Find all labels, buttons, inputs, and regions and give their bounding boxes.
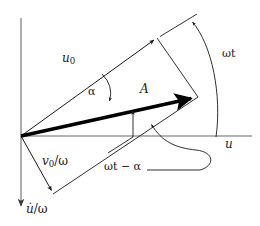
label-omega-t-minus-alpha: ωt − α: [104, 161, 141, 172]
label-udot-base: u̇: [26, 202, 34, 216]
omega-t-minus-alpha-loop-leader: [152, 125, 211, 171]
label-omega-t: ωt: [222, 48, 235, 59]
extension-tick-line: [160, 14, 197, 37]
label-u0-base: u: [62, 51, 70, 65]
label-udot-over-omega: u̇/ω: [26, 203, 48, 215]
phasor-diagram-figure: u0 α A ωt u v0/ω ωt − α u̇/ω: [0, 0, 260, 226]
label-udot-tail: /ω: [34, 202, 48, 216]
omega-t-angle-arc: [193, 22, 218, 137]
label-A: A: [140, 83, 149, 95]
label-u0: u0: [62, 52, 75, 66]
label-u0-subscript: 0: [70, 56, 76, 66]
label-v0-base: v: [42, 154, 49, 168]
omega-t-minus-alpha-leader-left: [108, 137, 133, 153]
label-alpha: α: [88, 86, 95, 97]
parallelogram-side-top-right: [157, 38, 198, 97]
alpha-angle-arc: [102, 74, 111, 101]
label-v0-over-omega: v0/ω: [42, 155, 68, 169]
label-v0-tail: /ω: [54, 154, 68, 168]
diagram-canvas: [0, 0, 260, 226]
label-u-axis: u: [225, 138, 233, 150]
